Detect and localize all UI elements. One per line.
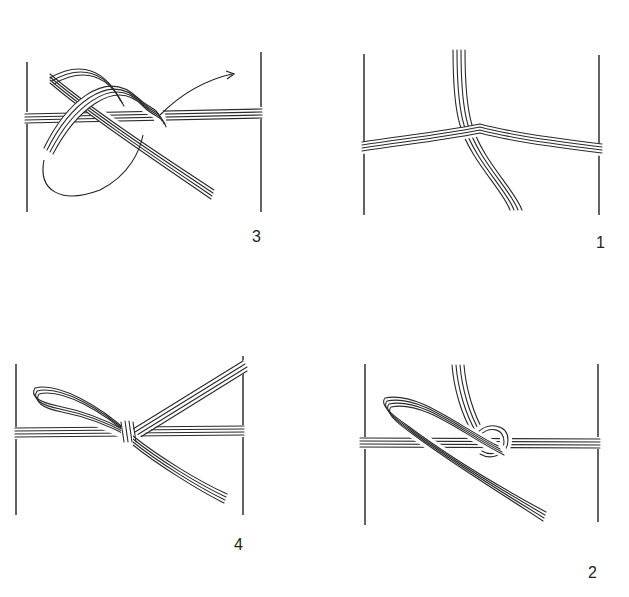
step-2-panel: 2 [340,350,629,597]
step-2-illustration [340,350,629,597]
step-4-illustration [0,340,300,570]
step-3-illustration [0,0,300,260]
step-3-panel: 3 [0,0,300,260]
step-1-illustration [340,30,629,270]
step-1-panel: 1 [340,30,629,270]
step-label: 4 [234,536,243,554]
step-label: 3 [252,228,261,246]
lower-tail-cord [133,436,227,503]
step-label: 1 [596,234,605,252]
step-label: 2 [588,564,597,582]
step-4-panel: 4 [0,340,300,570]
